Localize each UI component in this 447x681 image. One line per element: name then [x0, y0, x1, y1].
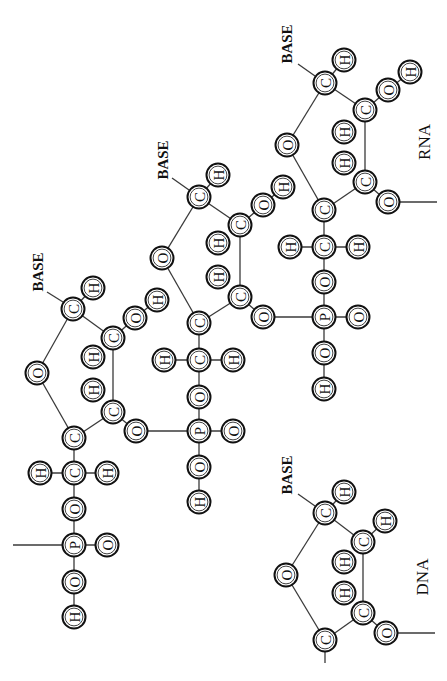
atom-o: O [377, 191, 400, 214]
atom-symbol: H [337, 54, 353, 65]
atom-h: H [207, 164, 230, 187]
atom-o: O [188, 386, 211, 409]
atom-h: H [222, 349, 245, 372]
atom-symbol: H [378, 515, 394, 526]
atom-c: C [102, 327, 125, 350]
atom-symbol: C [318, 78, 334, 88]
atom-o: O [377, 79, 400, 102]
atom-symbol: H [211, 237, 227, 248]
atom-h: H [29, 462, 52, 485]
atom-o: O [252, 194, 275, 217]
atom-symbol: H [67, 611, 83, 622]
atom-symbol: O [256, 199, 272, 210]
atom-symbol: P [67, 541, 83, 549]
atom-o: O [125, 420, 148, 443]
atom-symbol: H [86, 384, 102, 395]
atom-symbol: C [317, 205, 333, 215]
atom-symbol: O [279, 569, 295, 580]
atom-o: O [222, 420, 245, 443]
atom-o: O [347, 306, 370, 329]
atom-symbol: H [337, 556, 353, 567]
base-1: BASE [30, 252, 46, 291]
atom-symbol: H [337, 587, 353, 598]
atom-symbol: O [30, 367, 46, 378]
atom-symbol: O [280, 139, 296, 150]
base-2: BASE [155, 140, 171, 179]
atom-c: C [188, 312, 211, 335]
atom-symbol: H [86, 351, 102, 362]
atom-h: H [347, 236, 370, 259]
atom-h: H [63, 606, 86, 629]
atom-symbol: C [358, 177, 374, 187]
base-link-line [298, 494, 315, 506]
atom-h: H [188, 491, 211, 514]
atom-c: C [314, 502, 337, 525]
atom-o: O [275, 564, 298, 587]
atom-symbol: P [192, 427, 208, 435]
base-link-line [298, 64, 315, 76]
atom-h: H [82, 379, 105, 402]
atom-h: H [333, 481, 356, 504]
atom-symbol: C [67, 433, 83, 443]
atom-symbol: O [67, 503, 83, 514]
atom-symbol: P [317, 313, 333, 321]
atom-c: C [229, 214, 252, 237]
atom-symbol: C [356, 608, 372, 618]
atom-h: H [153, 349, 176, 372]
atom-o: O [313, 342, 336, 365]
atom-o: O [188, 456, 211, 479]
atom-h: H [399, 61, 422, 84]
atom-symbol: O [256, 311, 272, 322]
atom-symbol: C [192, 355, 208, 365]
atom-symbol: H [226, 354, 242, 365]
base-link-line [47, 292, 63, 302]
atom-h: H [333, 121, 356, 144]
atom-h: H [279, 236, 302, 259]
atom-symbol: O [317, 347, 333, 358]
base-3: BASE [279, 24, 295, 63]
atom-symbol: O [379, 627, 395, 638]
atom-symbol: C [318, 508, 334, 518]
atom-symbol: C [356, 537, 372, 547]
atom-o: O [252, 306, 275, 329]
atom-c: C [63, 462, 86, 485]
atom-c: C [229, 286, 252, 309]
atom-c: C [352, 602, 375, 625]
sugar-phosphate-diagram: CHOCOHHHCOCCHHOPOOHCHOCOHHHCOCCHHOPOOHCH… [0, 0, 447, 681]
atom-o: O [63, 498, 86, 521]
atom-o: O [124, 307, 147, 330]
atom-symbol: H [351, 241, 367, 252]
rna-label: RNA [415, 123, 434, 160]
atom-h: H [313, 378, 336, 401]
atoms: CHOCOHHHCOCCHHOPOOHCHOCOHHHCOCCHHOPOOHCH… [26, 49, 422, 652]
atom-h: H [207, 266, 230, 289]
atom-symbol: O [192, 391, 208, 402]
atom-symbol: O [226, 425, 242, 436]
atom-h: H [374, 510, 397, 533]
atom-symbol: O [100, 539, 116, 550]
atom-symbol: O [155, 252, 171, 263]
atom-c: C [314, 72, 337, 95]
atom-c: C [313, 236, 336, 259]
atom-symbol: O [67, 576, 83, 587]
atom-symbol: H [403, 66, 419, 77]
atom-h: H [96, 462, 119, 485]
atom-c: C [354, 171, 377, 194]
atom-c: C [354, 99, 377, 122]
atom-symbol: C [318, 635, 334, 645]
atom-symbol: C [192, 192, 208, 202]
atom-o: O [313, 271, 336, 294]
atom-symbol: H [157, 354, 173, 365]
atom-o: O [26, 362, 49, 385]
atom-p: P [313, 306, 336, 329]
atom-symbol: H [211, 271, 227, 282]
atom-symbol: H [283, 241, 299, 252]
atom-symbol: H [317, 383, 333, 394]
atom-symbol: H [337, 157, 353, 168]
atom-symbol: O [317, 276, 333, 287]
base-dna: BASE [279, 455, 295, 494]
atom-o: O [63, 571, 86, 594]
base-link-line [172, 178, 189, 190]
atom-symbol: O [192, 461, 208, 472]
atom-symbol: O [381, 84, 397, 95]
